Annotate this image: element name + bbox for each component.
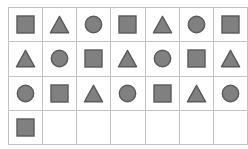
shape-cell[interactable] bbox=[145, 110, 179, 144]
triangle-shape bbox=[146, 8, 179, 41]
empty-cell bbox=[214, 111, 247, 144]
shape-cell[interactable] bbox=[145, 42, 179, 76]
shape-cell[interactable] bbox=[145, 8, 179, 42]
circle-shape bbox=[111, 77, 144, 110]
shape-cell[interactable] bbox=[111, 110, 145, 144]
shape-cell[interactable] bbox=[77, 8, 111, 42]
shape-cell[interactable] bbox=[111, 8, 145, 42]
empty-cell bbox=[77, 111, 110, 144]
square-shape bbox=[9, 111, 42, 144]
circle-shape bbox=[214, 77, 247, 110]
square-shape bbox=[43, 77, 76, 110]
empty-cell bbox=[111, 111, 144, 144]
shape-row bbox=[9, 8, 248, 42]
shape-cell[interactable] bbox=[77, 42, 111, 76]
triangle-shape bbox=[214, 42, 247, 75]
circle-shape bbox=[146, 42, 179, 75]
shape-cell[interactable] bbox=[9, 8, 43, 42]
shape-cell[interactable] bbox=[43, 110, 77, 144]
shape-pattern-table bbox=[8, 7, 248, 145]
triangle-shape bbox=[9, 42, 42, 75]
shape-cell[interactable] bbox=[213, 110, 247, 144]
square-shape bbox=[9, 8, 42, 41]
shape-row bbox=[9, 110, 248, 144]
shape-cell[interactable] bbox=[179, 110, 213, 144]
shape-cell[interactable] bbox=[9, 110, 43, 144]
shape-row bbox=[9, 76, 248, 110]
shape-cell[interactable] bbox=[43, 42, 77, 76]
shape-cell[interactable] bbox=[179, 8, 213, 42]
square-shape bbox=[146, 77, 179, 110]
shape-cell[interactable] bbox=[213, 76, 247, 110]
shape-cell[interactable] bbox=[9, 42, 43, 76]
empty-cell bbox=[146, 111, 179, 144]
triangle-shape bbox=[180, 77, 213, 110]
shape-cell[interactable] bbox=[111, 76, 145, 110]
square-shape bbox=[180, 42, 213, 75]
triangle-shape bbox=[43, 8, 76, 41]
shape-cell[interactable] bbox=[179, 42, 213, 76]
shape-cell[interactable] bbox=[145, 76, 179, 110]
shape-cell[interactable] bbox=[43, 76, 77, 110]
triangle-shape bbox=[111, 42, 144, 75]
circle-shape bbox=[9, 77, 42, 110]
shape-cell[interactable] bbox=[9, 76, 43, 110]
circle-shape bbox=[43, 42, 76, 75]
shape-cell[interactable] bbox=[213, 8, 247, 42]
shape-cell[interactable] bbox=[77, 110, 111, 144]
shape-cell[interactable] bbox=[43, 8, 77, 42]
shape-cell[interactable] bbox=[77, 76, 111, 110]
circle-shape bbox=[77, 8, 110, 41]
empty-cell bbox=[43, 111, 76, 144]
shape-grid-canvas bbox=[0, 0, 248, 149]
shape-row bbox=[9, 42, 248, 76]
square-shape bbox=[111, 8, 144, 41]
empty-cell bbox=[180, 111, 213, 144]
square-shape bbox=[214, 8, 247, 41]
shape-cell[interactable] bbox=[111, 42, 145, 76]
shape-cell[interactable] bbox=[213, 42, 247, 76]
shape-table-body bbox=[9, 8, 248, 145]
circle-shape bbox=[180, 8, 213, 41]
shape-cell[interactable] bbox=[179, 76, 213, 110]
triangle-shape bbox=[77, 77, 110, 110]
square-shape bbox=[77, 42, 110, 75]
